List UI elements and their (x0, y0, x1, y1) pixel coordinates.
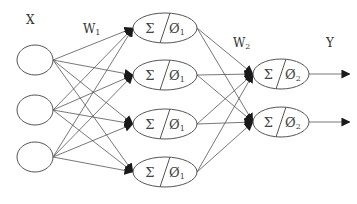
edge-x3-h4 (53, 157, 133, 172)
input-node-x2 (17, 95, 53, 125)
network-nodes: ΣØ1ΣØ1ΣØ1ΣØ1ΣØ2ΣØ2 (17, 13, 309, 187)
edge-h2-y1 (197, 74, 253, 75)
output-node-y1: ΣØ2 (253, 59, 309, 89)
edge-x3-h3 (53, 124, 133, 157)
edge-h3-y1 (197, 74, 253, 124)
hidden-node-h1: ΣØ1 (133, 13, 197, 43)
edge-x2-h1 (53, 28, 133, 110)
input-node-x1 (17, 45, 53, 75)
edge-x1-h2 (53, 60, 133, 75)
weights2-label: W2 (233, 36, 250, 51)
hidden-node-h2: ΣØ1 (133, 60, 197, 90)
output-node-y2: ΣØ2 (253, 107, 309, 137)
sum-symbol: Σ (145, 68, 154, 83)
sum-symbol: Σ (264, 115, 273, 130)
hidden-node-h4: ΣØ1 (133, 157, 197, 187)
hidden-node-h3: ΣØ1 (133, 109, 197, 139)
weights1-label: W1 (83, 22, 100, 37)
edge-h4-y2 (197, 122, 253, 172)
input-node-x3 (17, 142, 53, 172)
input-label: X (26, 13, 35, 27)
edge-x2-h4 (53, 110, 133, 172)
output-label: Y (325, 36, 335, 50)
edge-x3-h2 (53, 75, 133, 157)
edge-x3-h1 (53, 28, 133, 157)
sum-symbol: Σ (145, 165, 154, 180)
edge-h1-y1 (197, 28, 253, 74)
sum-symbol: Σ (145, 117, 154, 132)
sum-symbol: Σ (145, 21, 154, 36)
edge-x2-h3 (53, 110, 133, 124)
connection-edges (53, 28, 350, 172)
neural-network-diagram: ΣØ1ΣØ1ΣØ1ΣØ1ΣØ2ΣØ2 X W1 W2 Y (0, 0, 357, 204)
sum-symbol: Σ (264, 67, 273, 82)
edge-h4-y1 (197, 74, 253, 172)
